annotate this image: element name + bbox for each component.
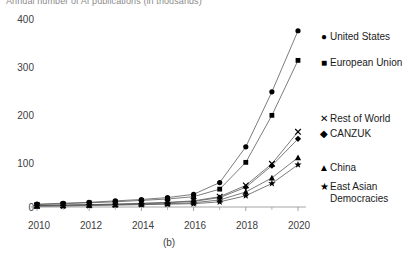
square-marker-icon: ■ — [318, 57, 330, 68]
legend-item-european-union: ■European Union — [318, 56, 402, 68]
star-marker-icon: ★ — [318, 181, 330, 193]
legend-label: Rest of World — [330, 113, 390, 124]
legend-item-east-asian-democracies: ★East Asian Democracies — [318, 180, 413, 204]
triangle-marker-icon: ▲ — [318, 162, 330, 173]
legend-label: European Union — [330, 57, 402, 68]
diamond-marker-icon: ◆ — [318, 128, 330, 139]
legend-item-united-states: ●United States — [318, 30, 390, 42]
cross-marker-icon: ✕ — [318, 113, 330, 124]
legend-label: China — [330, 162, 356, 173]
legend-label: CANZUK — [330, 128, 371, 139]
chart-figure: Annual number of AI publications (in tho… — [0, 0, 418, 253]
legend-label-second-line: Democracies — [330, 193, 388, 205]
legend-label: United States — [330, 31, 390, 42]
circle-marker-icon: ● — [318, 31, 330, 42]
legend-item-canzuk: ◆CANZUK — [318, 127, 371, 139]
legend-item-china: ▲China — [318, 161, 356, 173]
legend-label: East Asian — [330, 181, 377, 193]
legend-item-rest-of-world: ✕Rest of World — [318, 112, 390, 124]
